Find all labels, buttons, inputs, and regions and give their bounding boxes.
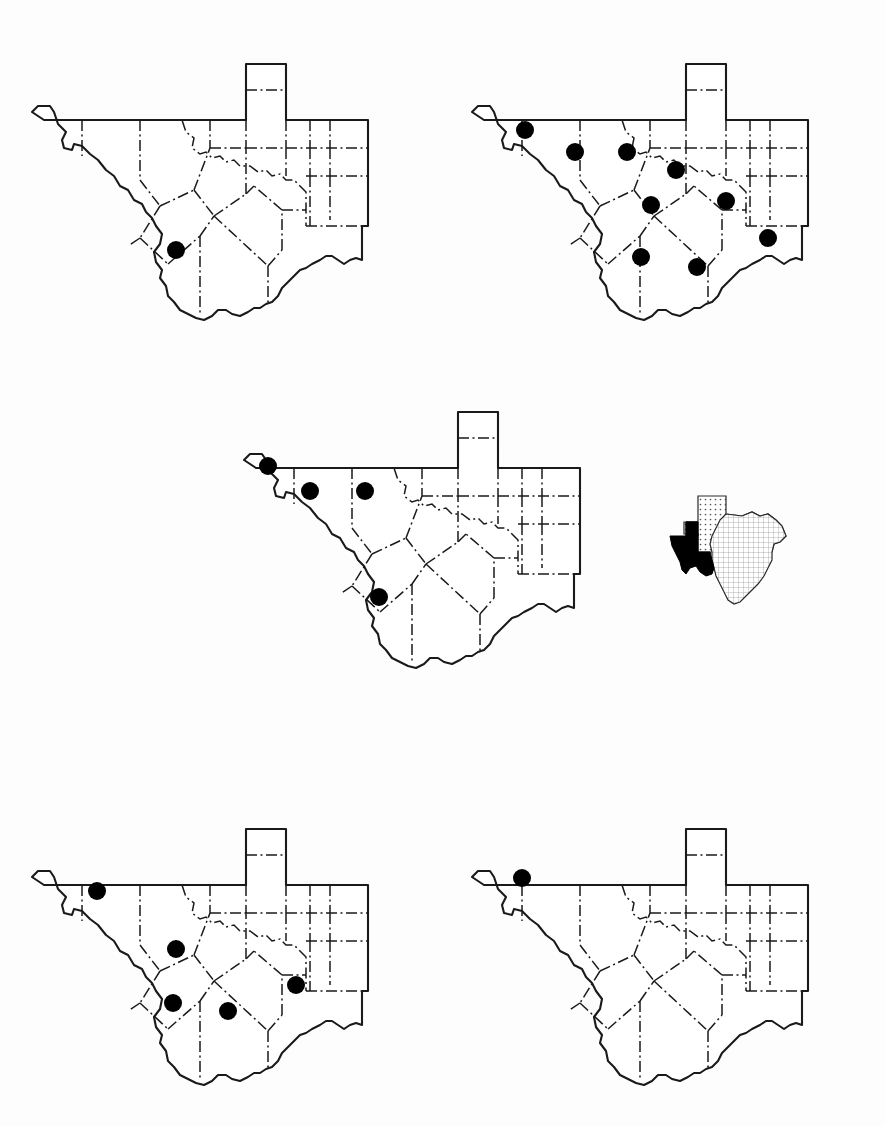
- occurrence-dot: [301, 482, 319, 500]
- inset-texas-east: [710, 512, 786, 604]
- distribution-map-middle: [222, 368, 622, 698]
- occurrence-dot: [516, 121, 534, 139]
- map-svg-middle: [222, 368, 622, 698]
- occurrence-dot: [566, 143, 584, 161]
- occurrence-dot: [167, 241, 185, 259]
- texas-locator-inset: [668, 492, 808, 612]
- distribution-map-bottom-right: [450, 785, 850, 1115]
- occurrence-dot: [667, 161, 685, 179]
- map-svg-bottom-left: [10, 785, 410, 1115]
- occurrence-dot: [513, 869, 531, 887]
- occurrence-dot: [618, 143, 636, 161]
- distribution-map-bottom-left: [10, 785, 410, 1115]
- distribution-map-top-left: [10, 20, 410, 350]
- occurrence-dot: [632, 248, 650, 266]
- occurrence-dot: [688, 258, 706, 276]
- occurrence-dot: [287, 976, 305, 994]
- occurrence-dot: [164, 994, 182, 1012]
- distribution-map-top-right: [450, 20, 850, 350]
- occurrence-dot: [370, 588, 388, 606]
- occurrence-dot: [259, 457, 277, 475]
- map-svg-top-left: [10, 20, 410, 350]
- occurrence-dots: [167, 241, 185, 259]
- inset-svg: [668, 492, 808, 612]
- occurrence-dot: [356, 482, 374, 500]
- map-svg-top-right: [450, 20, 850, 350]
- occurrence-dot: [717, 192, 735, 210]
- occurrence-dot: [167, 940, 185, 958]
- occurrence-dot: [219, 1002, 237, 1020]
- figure-sheet: [0, 0, 885, 1126]
- map-svg-bottom-right: [450, 785, 850, 1115]
- occurrence-dots: [513, 869, 531, 887]
- occurrence-dot: [642, 196, 660, 214]
- occurrence-dot: [759, 229, 777, 247]
- inset-shaded-notch: [686, 522, 698, 536]
- occurrence-dot: [88, 882, 106, 900]
